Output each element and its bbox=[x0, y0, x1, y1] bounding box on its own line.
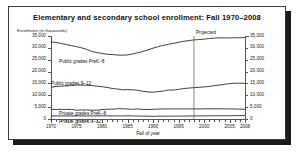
x-tick-minor bbox=[189, 119, 190, 122]
y-tick-label: 30,000 bbox=[32, 44, 46, 49]
x-tick-minor bbox=[184, 119, 185, 122]
y-tick-label-right: 0 bbox=[250, 116, 253, 121]
x-tick-label: 1980 bbox=[97, 124, 107, 129]
x-tick-major bbox=[153, 119, 154, 123]
x-tick-minor bbox=[240, 119, 241, 122]
y-tick-label-right: 5,000 bbox=[250, 104, 262, 109]
series-label-private-prek8: Private grades PreK–8 bbox=[59, 111, 106, 116]
x-tick-label: 1995 bbox=[174, 124, 184, 129]
x-tick-minor bbox=[107, 119, 108, 122]
y-tick-label: 35,000 bbox=[32, 33, 46, 38]
x-tick-minor bbox=[138, 119, 139, 122]
y-tick-label-right: 20,000 bbox=[250, 68, 264, 73]
series-canvas bbox=[51, 36, 245, 119]
x-tick-minor bbox=[92, 119, 93, 122]
y-tick-label-right: 15,000 bbox=[250, 80, 264, 85]
y-tick-label: 5,000 bbox=[35, 104, 47, 109]
x-tick-minor bbox=[148, 119, 149, 122]
y-tick-label-right: 25,000 bbox=[250, 56, 264, 61]
chart-figure: Elementary and secondary school enrollme… bbox=[8, 6, 286, 140]
x-tick-major bbox=[77, 119, 78, 123]
x-tick-minor bbox=[133, 119, 134, 122]
x-tick-major bbox=[245, 119, 246, 123]
x-tick-label: 2000 bbox=[199, 124, 209, 129]
x-tick-major bbox=[102, 119, 103, 123]
x-tick-minor bbox=[225, 119, 226, 122]
series-label-public-9-12: Public grades 9–12 bbox=[51, 81, 91, 86]
x-tick-minor bbox=[71, 119, 72, 122]
x-tick-minor bbox=[214, 119, 215, 122]
x-tick-minor bbox=[199, 119, 200, 122]
series-line-2 bbox=[51, 109, 245, 111]
x-tick-label: 2008 bbox=[240, 124, 250, 129]
x-tick-minor bbox=[117, 119, 118, 122]
x-tick-minor bbox=[87, 119, 88, 122]
x-tick-minor bbox=[143, 119, 144, 122]
x-tick-label: 1970 bbox=[46, 124, 56, 129]
chart-title: Elementary and secondary school enrollme… bbox=[9, 13, 285, 22]
x-tick-minor bbox=[219, 119, 220, 122]
x-tick-minor bbox=[194, 119, 195, 122]
y-tick-label: 25,000 bbox=[32, 56, 46, 61]
x-tick-label: 1985 bbox=[122, 124, 132, 129]
x-tick-label: 1990 bbox=[148, 124, 158, 129]
x-tick-minor bbox=[97, 119, 98, 122]
x-tick-label: 2005 bbox=[225, 124, 235, 129]
x-tick-minor bbox=[82, 119, 83, 122]
x-tick-minor bbox=[209, 119, 210, 122]
x-tick-major bbox=[128, 119, 129, 123]
x-tick-minor bbox=[112, 119, 113, 122]
x-tick-minor bbox=[122, 119, 123, 122]
y-tick-label: 0 bbox=[43, 116, 46, 121]
series-label-public-prek8: Public grades PreK–8 bbox=[59, 59, 104, 64]
x-tick-major bbox=[51, 119, 52, 123]
x-tick-minor bbox=[168, 119, 169, 122]
y-tick-label-right: 30,000 bbox=[250, 44, 264, 49]
projected-annotation-label: Projected bbox=[196, 30, 216, 35]
x-tick-major bbox=[179, 119, 180, 123]
y-tick-label: 10,000 bbox=[32, 92, 46, 97]
y-tick-label-right: 10,000 bbox=[250, 92, 264, 97]
series-line-0 bbox=[51, 38, 245, 56]
x-tick-minor bbox=[163, 119, 164, 122]
x-tick-major bbox=[204, 119, 205, 123]
y-tick-label: 15,000 bbox=[32, 80, 46, 85]
y-tick-label-right: 35,000 bbox=[250, 33, 264, 38]
x-tick-minor bbox=[56, 119, 57, 122]
plot-area bbox=[51, 36, 245, 119]
x-tick-minor bbox=[66, 119, 67, 122]
x-tick-minor bbox=[235, 119, 236, 122]
x-tick-minor bbox=[174, 119, 175, 122]
x-tick-minor bbox=[61, 119, 62, 122]
x-tick-label: 1975 bbox=[71, 124, 81, 129]
x-tick-minor bbox=[158, 119, 159, 122]
x-axis-label: Fall of year bbox=[51, 131, 245, 136]
y-tick-label: 20,000 bbox=[32, 68, 46, 73]
x-tick-major bbox=[230, 119, 231, 123]
